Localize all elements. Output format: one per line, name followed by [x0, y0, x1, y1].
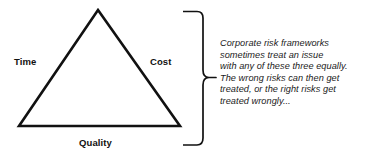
- annotation-text-block: Corporate risk frameworks sometimes trea…: [220, 38, 380, 108]
- annotation-line: treated wrongly...: [220, 96, 380, 108]
- annotation-line: The wrong risks can then get: [220, 73, 380, 85]
- triangle-label-quality: Quality: [79, 137, 112, 148]
- curly-brace-shape: [183, 12, 216, 146]
- triangle-label-time: Time: [14, 56, 36, 67]
- annotation-line: Corporate risk frameworks: [220, 38, 380, 50]
- annotation-line: treated, or the right risks get: [220, 84, 380, 96]
- triangle-label-cost: Cost: [150, 56, 172, 67]
- annotation-line: sometimes treat an issue: [220, 50, 380, 62]
- triangle-shape: [19, 10, 180, 126]
- annotation-line: with any of these three equally.: [220, 61, 380, 73]
- diagram-canvas: Time Cost Quality Corporate risk framewo…: [0, 0, 386, 162]
